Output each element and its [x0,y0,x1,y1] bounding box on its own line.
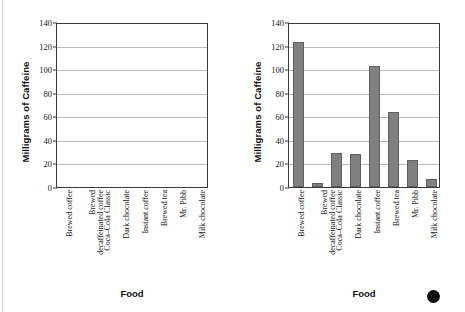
x-tick-label: Milk chocolate [431,190,447,276]
plot-area: 020406080100120140 [288,23,440,188]
bar [331,153,343,187]
y-tick-label: 80 [276,89,290,99]
x-tick-label: Instant coffee [142,190,158,276]
x-tick-label: Instant coffee [374,190,390,276]
x-tick-labels: Brewed coffeeBreweddecaffeinated coffeeC… [288,190,440,276]
y-tick-label: 140 [39,18,57,28]
x-tick-label: Mr. Pibb [412,190,428,276]
y-tick-label: 100 [39,65,57,75]
x-tick-label: Mr. Pibb [180,190,196,276]
x-tick-label: Brewed tea [161,190,177,276]
bar [312,183,324,187]
x-tick-label: Milk chocolate [199,190,215,276]
bar-series [289,24,439,187]
y-axis-title: Milligrams of Caffeine [19,42,33,182]
y-tick-label: 140 [271,18,289,28]
chart-panel-empty: Milligrams of Caffeine020406080100120140… [0,0,232,312]
x-tick-label: Coca–Cola Classic [336,190,352,276]
y-tick-label: 60 [44,112,58,122]
y-tick-label: 60 [276,112,290,122]
bar-series [57,24,207,187]
x-axis-title: Food [288,288,440,299]
x-tick-labels: Brewed coffeeBreweddecaffeinated coffeeC… [56,190,208,276]
chart-panel-filled: Milligrams of Caffeine020406080100120140… [232,0,464,312]
x-axis-title: Food [56,288,208,299]
x-tick-label: Brewed tea [393,190,409,276]
plot-area: 020406080100120140 [56,23,208,188]
bar [350,154,362,187]
y-axis-title: Milligrams of Caffeine [251,42,265,182]
y-tick-label: 80 [44,89,58,99]
y-tick-label: 40 [276,136,290,146]
bar [426,179,438,187]
x-tick-label: Brewed coffee [298,190,314,276]
x-tick-label: Brewed coffee [66,190,82,276]
bar [369,66,381,187]
y-tick-label: 20 [276,159,290,169]
filled-circle-icon [427,290,440,303]
bar [388,112,400,187]
x-tick-label: Dark chocolate [123,190,139,276]
y-tick-label: 20 [44,159,58,169]
bar [293,42,305,187]
y-tick-label: 120 [39,42,57,52]
y-tick-label: 100 [271,65,289,75]
y-tick-label: 120 [271,42,289,52]
y-tick-label: 40 [44,136,58,146]
x-tick-label: Dark chocolate [355,190,371,276]
x-tick-label: Coca–Cola Classic [104,190,120,276]
bar [407,160,419,187]
